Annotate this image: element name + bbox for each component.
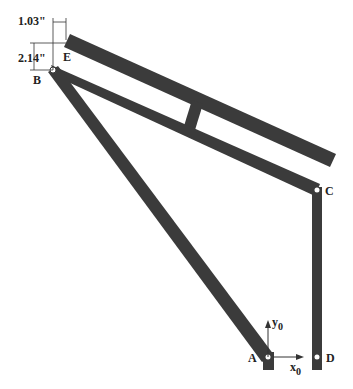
diagram-svg: 1.03" 2.14" E B C A D y0 x0: [0, 0, 353, 389]
pin-c: [315, 188, 320, 193]
label-e: E: [63, 50, 71, 64]
dim-horizontal: 1.03": [18, 14, 46, 28]
label-b: B: [33, 73, 41, 87]
x-axis-label: x0: [290, 360, 301, 377]
pin-d: [315, 355, 320, 360]
label-a: A: [248, 351, 257, 365]
label-c: C: [325, 184, 334, 198]
y-axis-arrow-icon: [265, 320, 271, 328]
y-axis-label: y0: [272, 315, 283, 332]
x-axis-arrow-icon: [296, 354, 304, 360]
link-ab: [48, 66, 274, 362]
label-d: D: [326, 351, 335, 365]
link-cd: [312, 187, 322, 370]
linkage-diagram: 1.03" 2.14" E B C A D y0 x0: [0, 0, 353, 389]
dim-vertical: 2.14": [18, 51, 46, 65]
